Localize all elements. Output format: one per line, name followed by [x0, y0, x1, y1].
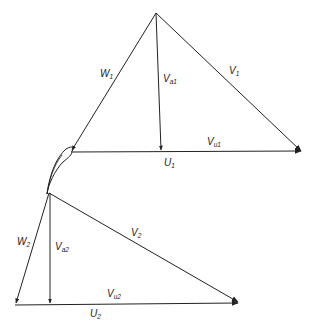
va1-vector — [156, 13, 161, 150]
label-u2: U2 — [90, 308, 101, 320]
w1-vector — [72, 13, 156, 150]
velocity-triangle-diagram: W1 Va1 V1 Vu1 U1 W2 Va2 V2 Vu2 U2 — [0, 0, 316, 330]
w2-vector — [16, 193, 49, 303]
label-u1: U1 — [164, 157, 175, 169]
label-w1: W1 — [100, 68, 113, 80]
label-vu1: Vu1 — [207, 136, 221, 148]
label-va1: Va1 — [163, 73, 177, 85]
label-w2: W2 — [17, 236, 30, 248]
u2-vector — [15, 303, 238, 305]
v1-vector — [156, 13, 301, 151]
label-vu2: Vu2 — [107, 288, 121, 300]
v2-vector — [49, 193, 238, 302]
outlet-triangle — [15, 193, 238, 305]
label-v1: V1 — [229, 65, 240, 77]
label-va2: Va2 — [55, 241, 69, 253]
inlet-triangle — [71, 13, 301, 152]
label-v2: V2 — [131, 227, 142, 239]
blade-profile — [47, 147, 73, 194]
u1-vector — [71, 151, 301, 152]
